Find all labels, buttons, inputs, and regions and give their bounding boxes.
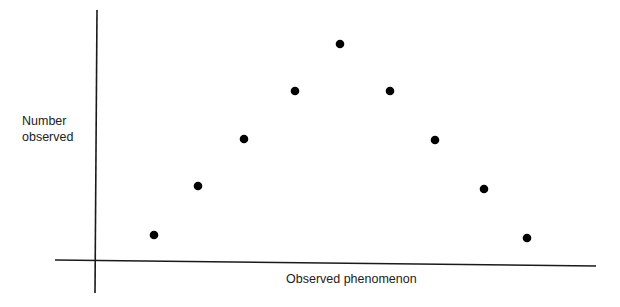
data-point bbox=[194, 182, 203, 191]
data-point bbox=[386, 87, 395, 96]
data-point bbox=[480, 185, 489, 194]
data-point bbox=[523, 234, 532, 243]
data-point bbox=[336, 40, 345, 49]
scatter-chart bbox=[0, 0, 620, 307]
data-point bbox=[240, 135, 249, 144]
x-axis bbox=[55, 260, 596, 266]
y-axis bbox=[95, 10, 97, 293]
y-axis-label: Number observed bbox=[22, 113, 73, 145]
data-points bbox=[150, 40, 532, 243]
data-point bbox=[150, 231, 159, 240]
x-axis-label: Observed phenomenon bbox=[286, 271, 417, 287]
data-point bbox=[291, 87, 300, 96]
data-point bbox=[431, 136, 440, 145]
